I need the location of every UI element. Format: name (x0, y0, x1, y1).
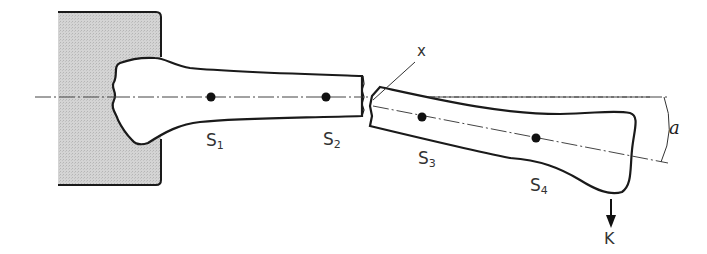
point-s1 (207, 93, 216, 102)
label-s1: S1 (206, 132, 224, 151)
point-s3 (418, 113, 427, 122)
label-force-k: K (604, 231, 615, 247)
label-s3: S3 (418, 150, 436, 169)
bone-fragment-distal (370, 87, 636, 193)
point-s4 (532, 134, 541, 143)
label-s4: S4 (530, 177, 548, 196)
label-fracture-x: x (417, 44, 426, 59)
point-s2 (322, 93, 331, 102)
label-angle-a: a (669, 119, 680, 137)
diagram-canvas (0, 0, 707, 254)
label-s2: S2 (323, 131, 341, 150)
force-arrow-k (606, 199, 616, 228)
